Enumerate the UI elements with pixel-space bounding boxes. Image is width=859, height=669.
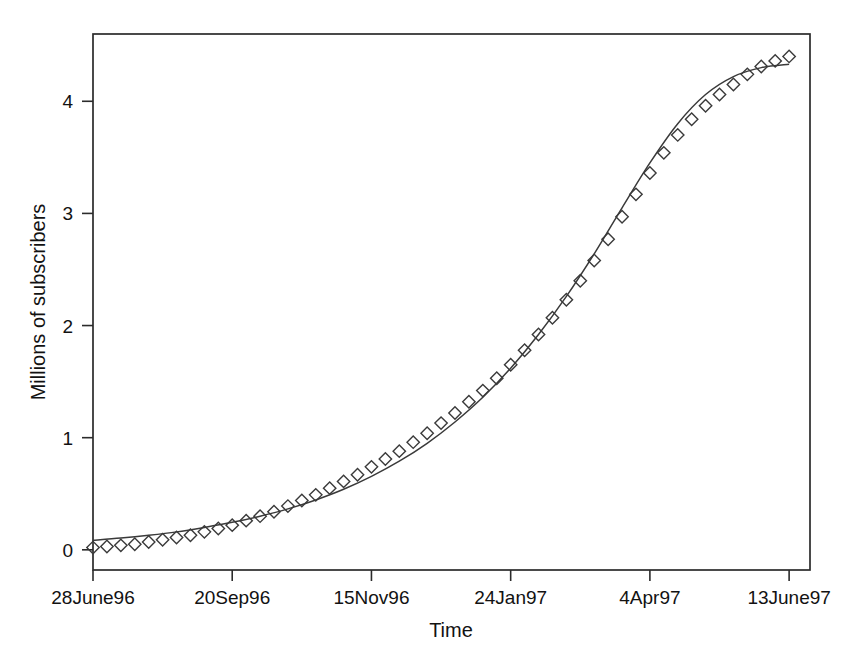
plot-frame <box>93 34 810 570</box>
data-point-marker <box>672 129 684 141</box>
data-point-marker <box>142 536 154 548</box>
x-tick-label: 24Jan97 <box>474 587 547 608</box>
y-axis-ticks <box>82 101 93 550</box>
data-point-marker <box>727 78 739 90</box>
data-point-marker <box>337 475 349 487</box>
data-point-marker <box>421 427 433 439</box>
y-tick-label: 1 <box>62 428 73 449</box>
chart-figure: 01234 28June9620Sep9615Nov9624Jan974Apr9… <box>0 0 859 669</box>
data-point-marker <box>783 50 795 62</box>
x-tick-label: 20Sep96 <box>194 587 270 608</box>
data-point-marker <box>115 539 127 551</box>
data-point-marker <box>129 538 141 550</box>
data-point-marker <box>407 436 419 448</box>
x-tick-label: 4Apr97 <box>619 587 680 608</box>
data-point-marker <box>449 407 461 419</box>
data-point-marker <box>477 384 489 396</box>
data-point-marker <box>685 113 697 125</box>
y-axis-tick-labels: 01234 <box>62 91 73 561</box>
data-point-marker <box>435 417 447 429</box>
x-axis-ticks <box>93 570 789 581</box>
y-tick-label: 4 <box>62 91 73 112</box>
data-point-marker <box>365 461 377 473</box>
x-tick-label: 28June96 <box>51 587 134 608</box>
fitted-exponential-curve <box>93 64 789 540</box>
data-point-marker <box>630 188 642 200</box>
x-tick-label: 13June97 <box>747 587 830 608</box>
chart-canvas: 01234 28June9620Sep9615Nov9624Jan974Apr9… <box>0 0 859 669</box>
data-point-marker <box>101 540 113 552</box>
data-point-markers <box>87 50 796 554</box>
x-axis-tick-labels: 28June9620Sep9615Nov9624Jan974Apr9713Jun… <box>51 587 831 608</box>
data-point-marker <box>351 468 363 480</box>
x-tick-label: 15Nov96 <box>333 587 409 608</box>
data-point-marker <box>616 211 628 223</box>
x-axis-title: Time <box>429 619 473 641</box>
y-axis-title: Millions of subscribers <box>27 204 49 401</box>
y-tick-label: 0 <box>62 540 73 561</box>
data-point-marker <box>699 100 711 112</box>
y-tick-label: 3 <box>62 203 73 224</box>
data-point-marker <box>393 445 405 457</box>
data-point-marker <box>156 534 168 546</box>
y-tick-label: 2 <box>62 316 73 337</box>
data-point-marker <box>713 88 725 100</box>
data-point-marker <box>379 453 391 465</box>
